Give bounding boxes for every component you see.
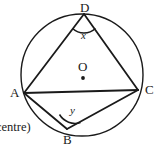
centre-point-marker xyxy=(81,76,85,80)
segment-DA xyxy=(24,14,84,93)
angle-label-y: y xyxy=(70,105,75,116)
vertex-label-d: D xyxy=(80,1,90,14)
vertex-label-o: O xyxy=(78,60,88,73)
segment-AC xyxy=(24,90,138,93)
caption-centre: centre) xyxy=(0,121,31,134)
vertex-label-a: A xyxy=(10,86,20,99)
vertex-label-b: B xyxy=(63,133,72,146)
geometry-figure: D A C B O x y centre) xyxy=(0,0,158,147)
vertex-label-c: C xyxy=(145,83,154,96)
angle-label-x: x xyxy=(81,30,86,41)
segment-DC xyxy=(84,14,138,90)
